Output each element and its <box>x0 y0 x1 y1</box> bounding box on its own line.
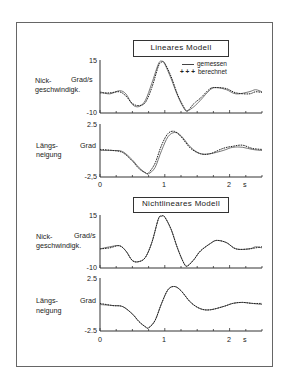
plot-area <box>0 0 289 388</box>
series-measured-line <box>100 286 262 328</box>
series-measured-line <box>100 61 262 111</box>
axes <box>100 124 262 177</box>
axes <box>100 215 262 268</box>
axes <box>100 278 262 331</box>
axes <box>100 60 262 113</box>
series-measured-line <box>100 216 262 267</box>
series-computed-line <box>100 216 262 267</box>
series-measured-line <box>100 132 262 174</box>
